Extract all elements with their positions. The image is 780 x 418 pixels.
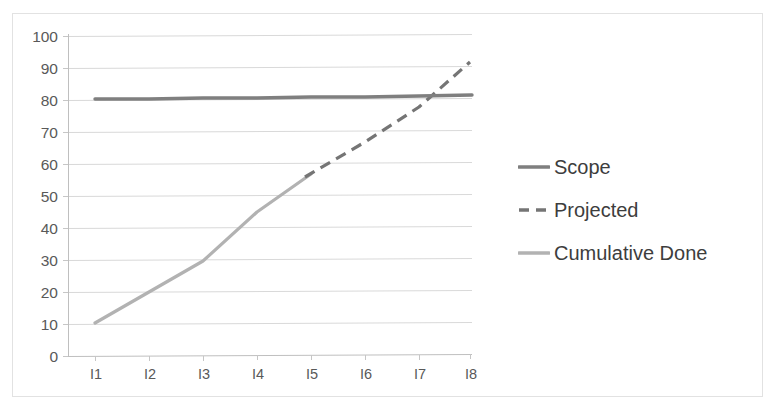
gridlines-horizontal: [68, 35, 472, 325]
y-tick-label: 90: [14, 61, 58, 77]
legend-line-icon-projected: [518, 203, 550, 217]
y-tick-label: 30: [14, 253, 58, 269]
x-tick-label: I5: [292, 367, 332, 382]
x-tick-label: I7: [400, 367, 440, 382]
y-tick-label: 0: [14, 349, 58, 365]
x-axis: [68, 355, 472, 357]
legend-label-projected: Projected: [554, 200, 639, 220]
y-tick-label: 20: [14, 285, 58, 301]
y-axis-ticks: [63, 37, 68, 357]
legend-item-projected[interactable]: Projected: [518, 188, 758, 231]
x-tick-label: I6: [346, 367, 386, 382]
y-tick-label: 70: [14, 125, 58, 141]
series-projected: [305, 62, 470, 177]
y-tick-label: 50: [14, 189, 58, 205]
y-tick-label: 100: [14, 29, 58, 45]
x-tick-label: I1: [76, 367, 116, 382]
y-tick-label: 80: [14, 93, 58, 109]
chart-legend: Scope Projected Cumulative Done: [518, 145, 758, 274]
x-tick-label: I8: [451, 367, 491, 382]
burnup-chart: 100 90 80 70 60 50 40 30 20 10 0 I1 I2 I…: [0, 0, 780, 418]
x-tick-label: I2: [130, 367, 170, 382]
legend-item-cumulative-done[interactable]: Cumulative Done: [518, 231, 758, 274]
legend-line-icon-cumulative-done: [518, 246, 550, 260]
legend-item-scope[interactable]: Scope: [518, 145, 758, 188]
x-tick-label: I4: [238, 367, 278, 382]
y-tick-label: 10: [14, 317, 58, 333]
x-tick-label: I3: [184, 367, 224, 382]
legend-label-cumulative-done: Cumulative Done: [554, 243, 707, 263]
y-tick-label: 40: [14, 221, 58, 237]
legend-label-scope: Scope: [554, 157, 611, 177]
legend-line-icon-scope: [518, 160, 550, 174]
y-tick-label: 60: [14, 157, 58, 173]
